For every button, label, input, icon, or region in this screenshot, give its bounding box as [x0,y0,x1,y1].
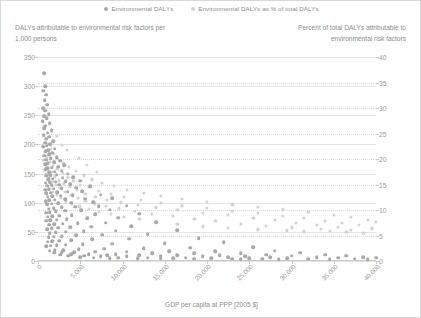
scatter-point [129,224,133,228]
tick-mark [35,57,38,58]
scatter-point [150,212,153,215]
tick-mark [35,86,38,87]
gridline-left [38,174,376,175]
scatter-point [201,211,204,214]
scatter-point [46,178,50,182]
scatter-point [60,169,64,173]
scatter-point [138,218,141,221]
scatter-point [332,213,335,216]
scatter-point [50,214,54,218]
scatter-point [55,243,59,247]
scatter-point [167,249,171,253]
scatter-point [123,215,126,218]
scatter-point [68,225,72,229]
x-axis-tick-label: 5,000 [52,263,85,296]
scatter-point [46,155,49,158]
scatter-point [44,137,47,140]
scatter-point [56,190,60,194]
x-axis-tick-label: 15,000 [136,263,169,296]
scatter-point [92,256,96,260]
scatter-point [44,150,48,154]
legend-item-environmental-dalys[interactable]: Environmental DALYs [104,5,173,12]
y-axis-left-tick-label: 250 [0,112,35,119]
scatter-point [45,174,49,178]
scatter-point [41,145,45,149]
scatter-point [59,197,62,200]
scatter-point [66,176,69,179]
chart-frame: Environmental DALYs Environmental DALYs … [0,0,421,318]
y-axis-left-tick-label: 50 [0,228,35,235]
scatter-point [226,255,230,259]
scatter-point [72,179,75,182]
scatter-point [81,242,85,246]
scatter-point [273,249,277,253]
scatter-point [48,199,52,203]
scatter-point [197,236,201,240]
scatter-point [48,187,51,190]
x-axis-tick-label: 10,000 [94,263,127,296]
scatter-point [84,192,87,195]
legend-item-environmental-dalys-percent[interactable]: Environmental DALYs as % of total DALYs [191,5,318,12]
gridline-left [38,232,376,233]
scatter-point [150,252,154,256]
scatter-point [45,116,49,120]
scatter-point [52,160,56,164]
scatter-point [125,250,129,254]
scatter-point [52,251,56,255]
gridline-right [38,108,376,109]
scatter-point [51,239,55,243]
scatter-point [111,196,115,200]
scatter-point [78,205,81,208]
y-axis-left-tick-label: 0 [0,258,35,265]
scatter-point [47,135,51,139]
scatter-point [69,238,73,242]
scatter-point [51,139,55,143]
scatter-point [109,193,112,196]
scatter-point [319,227,322,230]
scatter-point [139,199,142,202]
scatter-point [193,217,196,220]
scatter-point [324,253,328,257]
scatter-point [94,250,98,254]
scatter-point [44,124,48,128]
scatter-point [77,248,81,252]
scatter-point [66,190,70,194]
y-axis-right-tick-label: 5 [379,232,419,239]
scatter-point [374,221,377,224]
scatter-point [61,176,65,180]
x-axis-tick-label: 40,000 [348,263,381,296]
legend-label: Environmental DALYs as % of total DALYs [198,5,318,12]
scatter-point [252,245,256,249]
scatter-point [336,256,340,260]
scatter-point [55,218,59,222]
gridline-right [38,83,376,84]
scatter-point [48,153,52,157]
scatter-point [52,222,56,226]
scatter-point [218,253,222,257]
scatter-point [222,241,226,245]
scatter-point [57,239,61,243]
scatter-point [78,255,82,259]
scatter-point [53,175,56,178]
scatter-point [243,255,247,259]
scatter-point [43,98,47,102]
scatter-point [138,212,142,216]
right-axis-title: Percent of total DALYs attributable to e… [256,23,406,44]
y-axis-left-tick-label: 300 [0,83,35,90]
scatter-point [68,165,71,168]
scatter-point [47,167,50,170]
y-axis-right-tick-label: 15 [379,181,419,188]
y-axis-left-tick-label: 350 [0,54,35,61]
scatter-point [51,195,55,199]
scatter-point [336,225,339,228]
dot-icon [191,7,195,11]
scatter-point [74,170,77,173]
scatter-point [114,252,118,256]
scatter-point [90,178,93,181]
scatter-point [315,223,318,226]
scatter-point [89,225,93,229]
scatter-point [62,248,66,252]
scatter-point [46,240,50,244]
tick-mark [35,144,38,145]
scatter-point [47,188,51,192]
